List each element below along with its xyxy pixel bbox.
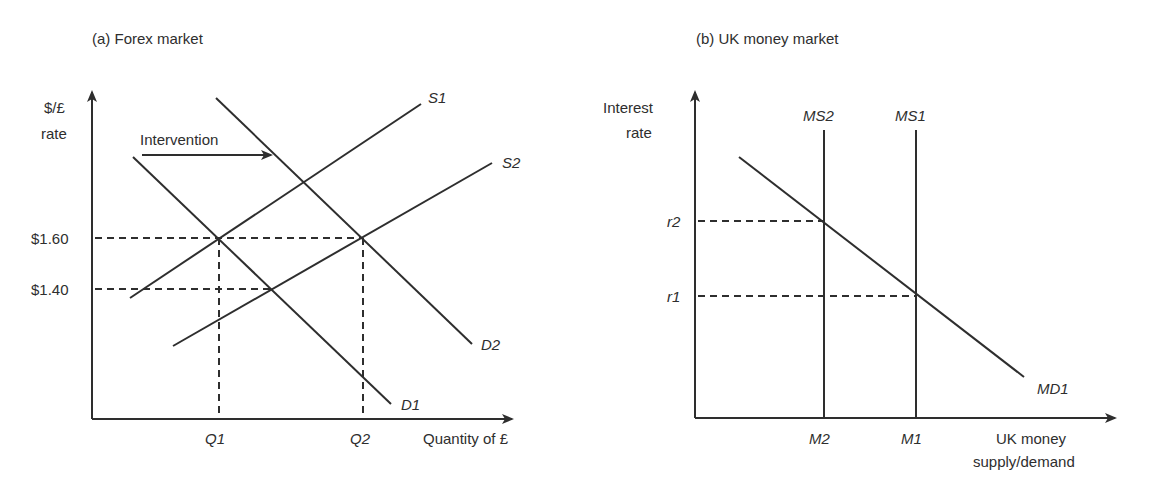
curve-md1 bbox=[739, 157, 1024, 377]
guide-lines-a bbox=[95, 238, 363, 419]
label-s2: S2 bbox=[502, 154, 521, 171]
tick-160: $1.60 bbox=[31, 230, 69, 247]
y-axis-label-b-1: Interest bbox=[603, 99, 654, 116]
label-d2: D2 bbox=[481, 336, 501, 353]
x-axis-label-a: Quantity of £ bbox=[423, 430, 509, 447]
y-axis-label-a-1: $/£ bbox=[44, 99, 66, 116]
tick-q2: Q2 bbox=[350, 430, 371, 447]
label-s1: S1 bbox=[428, 89, 446, 106]
charts-canvas: $/£ rate Quantity of £ $1.60 $1.40 Q1 Q2… bbox=[0, 0, 1149, 492]
intervention-label: Intervention bbox=[140, 131, 218, 148]
x-axis-label-b-1: UK money bbox=[996, 430, 1067, 447]
curve-d2 bbox=[216, 98, 472, 344]
guide-lines-b bbox=[698, 221, 916, 296]
label-ms2: MS2 bbox=[803, 107, 835, 124]
tick-140: $1.40 bbox=[31, 281, 69, 298]
tick-m1: M1 bbox=[901, 430, 922, 447]
forex-chart: $/£ rate Quantity of £ $1.60 $1.40 Q1 Q2… bbox=[31, 89, 521, 447]
tick-r2: r2 bbox=[667, 213, 681, 230]
money-market-chart: Interest rate UK money supply/demand r2 … bbox=[603, 92, 1115, 470]
y-axis-label-a-2: rate bbox=[41, 125, 67, 142]
x-axis-label-b-2: supply/demand bbox=[973, 453, 1075, 470]
label-ms1: MS1 bbox=[895, 107, 926, 124]
y-axis-label-b-2: rate bbox=[626, 124, 652, 141]
curve-d1 bbox=[133, 157, 391, 404]
tick-m2: M2 bbox=[809, 430, 830, 447]
label-d1: D1 bbox=[401, 396, 420, 413]
tick-q1: Q1 bbox=[205, 430, 225, 447]
label-md1: MD1 bbox=[1037, 380, 1069, 397]
tick-r1: r1 bbox=[667, 288, 680, 305]
